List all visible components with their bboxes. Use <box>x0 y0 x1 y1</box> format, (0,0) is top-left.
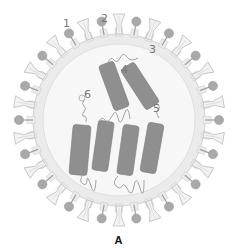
label-4: 4 <box>121 63 128 76</box>
label-6: 6 <box>84 88 91 101</box>
label-1: 1 <box>63 17 70 30</box>
hemagglutinin-spike <box>203 96 225 111</box>
label-5: 5 <box>153 102 160 115</box>
hemagglutinin-spike <box>14 129 36 144</box>
hemagglutinin-spike <box>143 18 161 41</box>
figure-caption: A <box>0 234 237 246</box>
hemagglutinin-spike <box>203 129 225 144</box>
label-2: 2 <box>101 12 108 25</box>
hemagglutinin-spike <box>113 206 125 226</box>
hemagglutinin-spike <box>14 96 36 111</box>
hemagglutinin-spike <box>143 199 161 222</box>
virion-diagram: 1 2 3 4 5 6 A <box>0 0 237 251</box>
hemagglutinin-spike <box>77 18 95 41</box>
label-3: 3 <box>149 43 156 56</box>
virion-illustration: 1 2 3 4 5 6 <box>0 0 237 251</box>
hemagglutinin-spike <box>77 199 95 222</box>
hemagglutinin-spike <box>113 14 125 34</box>
